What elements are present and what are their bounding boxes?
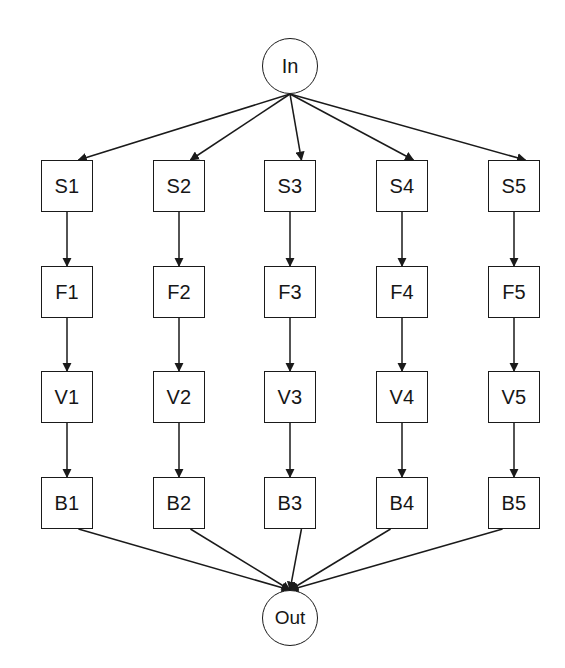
node-b5[interactable]: B5	[488, 477, 540, 529]
node-v2[interactable]: V2	[153, 371, 205, 423]
node-f1[interactable]: F1	[41, 266, 93, 318]
node-layer: In S1 S2 S3 S4 S5 F1 F2 F3 F4 F5	[0, 0, 565, 668]
node-in[interactable]: In	[262, 38, 318, 94]
node-v5-label: V5	[502, 386, 527, 409]
node-f4[interactable]: F4	[376, 266, 428, 318]
node-b2[interactable]: B2	[153, 477, 205, 529]
node-out[interactable]: Out	[262, 590, 318, 646]
node-v1-label: V1	[55, 386, 80, 409]
node-f2-label: F2	[167, 281, 191, 304]
node-b3[interactable]: B3	[264, 477, 316, 529]
node-f3[interactable]: F3	[264, 266, 316, 318]
node-v5[interactable]: V5	[488, 371, 540, 423]
node-b5-label: B5	[502, 492, 527, 515]
node-f4-label: F4	[390, 281, 414, 304]
node-s4[interactable]: S4	[376, 160, 428, 212]
node-in-label: In	[282, 55, 299, 78]
node-f1-label: F1	[55, 281, 79, 304]
node-s5[interactable]: S5	[488, 160, 540, 212]
node-s1-label: S1	[55, 175, 80, 198]
node-out-label: Out	[275, 607, 306, 629]
node-v3[interactable]: V3	[264, 371, 316, 423]
node-v4[interactable]: V4	[376, 371, 428, 423]
node-f2[interactable]: F2	[153, 266, 205, 318]
node-b4[interactable]: B4	[376, 477, 428, 529]
node-v4-label: V4	[390, 386, 415, 409]
node-f5-label: F5	[502, 281, 526, 304]
node-s2-label: S2	[167, 175, 192, 198]
node-s4-label: S4	[390, 175, 415, 198]
node-v3-label: V3	[278, 386, 303, 409]
node-b4-label: B4	[390, 492, 415, 515]
node-s2[interactable]: S2	[153, 160, 205, 212]
node-s3[interactable]: S3	[264, 160, 316, 212]
node-f3-label: F3	[278, 281, 302, 304]
node-v1[interactable]: V1	[41, 371, 93, 423]
node-f5[interactable]: F5	[488, 266, 540, 318]
node-v2-label: V2	[167, 386, 192, 409]
node-s3-label: S3	[278, 175, 303, 198]
node-b2-label: B2	[167, 492, 192, 515]
node-s5-label: S5	[502, 175, 527, 198]
node-b1[interactable]: B1	[41, 477, 93, 529]
node-b3-label: B3	[278, 492, 303, 515]
node-s1[interactable]: S1	[41, 160, 93, 212]
flow-diagram-canvas: In S1 S2 S3 S4 S5 F1 F2 F3 F4 F5	[0, 0, 565, 668]
node-b1-label: B1	[55, 492, 80, 515]
